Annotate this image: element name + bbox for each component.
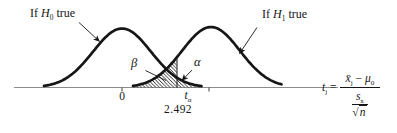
formula-t-subscript: j: [325, 88, 327, 96]
critical-value-label: 2.492: [164, 103, 192, 115]
xbar-subscript: j: [351, 79, 353, 87]
sqrt-n-term: √n: [352, 105, 367, 119]
alpha-arrow: [182, 70, 192, 81]
h1-suffix: true: [288, 7, 307, 21]
h0-prefix: If: [30, 6, 38, 20]
alpha-label: α: [194, 55, 201, 70]
h0-annotation: If H0 true: [30, 6, 75, 21]
sx-term: sx: [352, 90, 368, 105]
mu-subscript: 0: [371, 79, 375, 87]
radical-sign: √: [352, 106, 358, 118]
h1-arrow: [240, 28, 258, 54]
n-var: n: [359, 105, 368, 118]
h1-symbol: H: [273, 7, 282, 21]
hypothesis-test-figure: If H0 true If H1 true β α 0 tα 2.492 tj …: [0, 0, 397, 133]
h0-arrow: [79, 23, 100, 42]
t-alpha-label: tα: [185, 89, 192, 101]
s-subscript: x: [360, 97, 364, 105]
beta-label: β: [131, 56, 137, 71]
minus-sign: −: [356, 72, 363, 84]
h0-subscript: 0: [50, 13, 54, 22]
formula-equals: =: [330, 81, 337, 93]
formula-lhs: tj =: [322, 81, 337, 94]
h1-prefix: If: [262, 7, 270, 21]
h0-suffix: true: [56, 6, 75, 20]
formula-denominator: sx √n: [352, 88, 368, 119]
formula-fraction: x̄j − μ0 sx √n: [340, 72, 381, 120]
zero-label: 0: [119, 90, 125, 102]
h1-annotation: If H1 true: [262, 7, 307, 22]
h1-subscript: 1: [282, 14, 286, 23]
t-statistic-formula: tj = x̄j − μ0 sx √n: [322, 72, 380, 120]
h0-symbol: H: [41, 6, 50, 20]
formula-numerator: x̄j − μ0: [340, 72, 381, 88]
